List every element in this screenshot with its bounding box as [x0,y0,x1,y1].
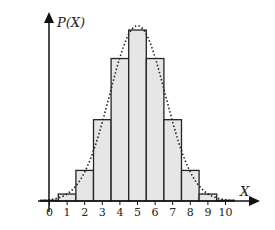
x-tick-label: 9 [204,206,211,219]
bar-5 [129,30,147,201]
x-tick-label: 10 [219,206,233,219]
x-axis-label: X [239,184,250,199]
bar-2 [76,170,94,201]
x-tick-label: 3 [99,206,106,219]
x-tick-label: 4 [116,206,123,219]
bar-3 [94,120,112,201]
x-tick-label: 2 [81,206,88,219]
bar-9 [199,194,217,201]
x-tick-label: 0 [46,206,53,219]
y-axis-arrow-icon [44,12,54,23]
x-ticks: 012345678910 [46,201,233,219]
x-axis-arrow-icon [249,196,260,206]
x-tick-label: 8 [187,206,194,219]
x-tick-label: 1 [64,206,71,219]
x-tick-label: 5 [134,206,141,219]
x-tick-label: 6 [152,206,159,219]
y-axis-label: P(X) [56,15,85,30]
bar-8 [182,170,200,201]
bar-1 [58,194,76,201]
bar-7 [164,120,182,201]
x-tick-label: 7 [169,206,176,219]
bars [41,30,235,201]
probability-histogram: 012345678910 P(X) X [0,0,275,230]
